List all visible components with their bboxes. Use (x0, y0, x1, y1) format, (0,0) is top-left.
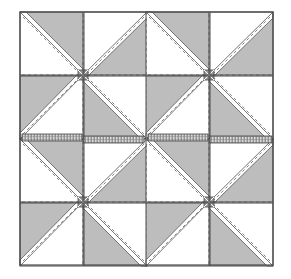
quilt-block-top-left (20, 12, 147, 139)
quilt-block-bottom-right (146, 139, 273, 266)
quilt-block-top-right (146, 12, 273, 139)
quilt-block-bottom-left (20, 139, 147, 266)
pinwheel-quilt-diagram (0, 0, 291, 279)
